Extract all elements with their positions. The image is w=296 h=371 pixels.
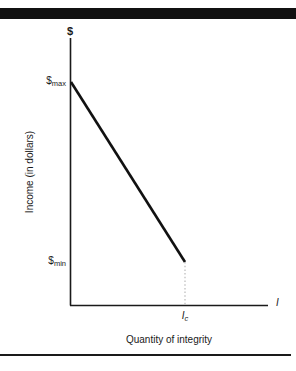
x-axis-symbol: I [276,298,279,308]
x-tick-ic-subscript: c [185,314,189,323]
bottom-rule [0,354,291,356]
y-tick-label-min: $min [48,256,66,266]
y-tick-max-subscript: max [52,79,66,88]
data-line-income-integrity [71,82,185,262]
y-tick-min-dollar: $ [48,255,54,266]
y-axis-symbol: $ [67,26,73,37]
x-axis-caption: Quantity of integrity [126,335,212,345]
y-tick-min-subscript: min [54,259,66,268]
x-tick-label-ic: Ic [182,311,189,321]
y-tick-max-dollar: $ [46,75,52,86]
figure-container: $ $max $min Ic I Quantity of integrity I… [0,0,296,371]
plot-area [0,0,296,371]
y-axis-caption: Income (in dollars) [25,131,35,213]
y-tick-label-max: $max [46,76,66,86]
